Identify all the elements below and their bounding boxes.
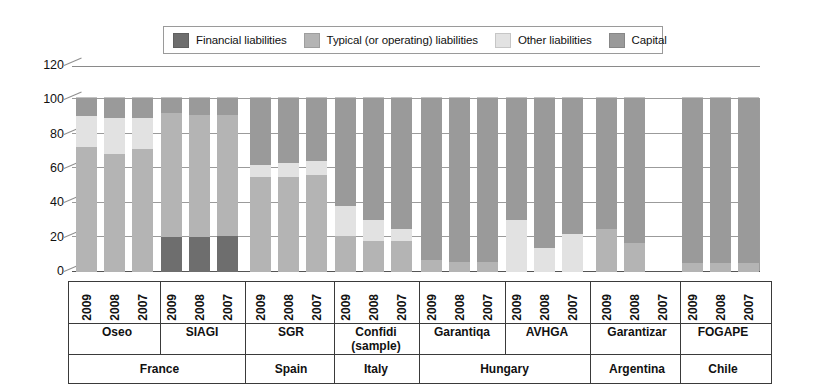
plot-canvas	[72, 66, 760, 272]
bar-fogape-2009	[682, 99, 703, 272]
bar-sgr-2007	[306, 99, 327, 272]
bar-garantizar-2007	[652, 99, 673, 272]
bar-segment-typical	[596, 229, 617, 272]
year-label-oseo-2007: 2007	[136, 294, 152, 321]
y-axis-tick-60: 60	[28, 162, 64, 174]
year-label-garantizar-2008: 2008	[628, 294, 644, 321]
institution-label-fogape: FOGAPE	[677, 326, 769, 340]
bar-segment-capital	[278, 97, 299, 163]
bar-segment-other	[506, 220, 527, 272]
bar-top-cap	[449, 95, 470, 98]
bar-confidisample-2009	[335, 99, 356, 272]
bar-segment-typical	[76, 147, 97, 272]
bar-garantiqa-2009	[421, 99, 442, 272]
y-axis: 120100806040200	[26, 66, 64, 296]
legend-swatch-financial-icon	[173, 33, 189, 48]
label-table-separator	[245, 355, 246, 383]
legend-swatch-typical-icon	[304, 33, 320, 48]
label-table-inner-separator	[160, 324, 161, 355]
bar-segment-typical	[391, 241, 412, 272]
country-label-row: FranceSpainItalyHungaryArgentinaChile	[68, 354, 772, 384]
plot-right-edge	[759, 99, 760, 272]
chart-top-boundary	[72, 66, 760, 67]
bar-garantiqa-2007	[477, 99, 498, 272]
bar-top-cap	[562, 95, 583, 98]
bar-segment-financial	[189, 237, 210, 272]
bar-segment-typical	[421, 260, 442, 272]
bar-segment-typical	[477, 262, 498, 272]
year-label-confidisample-2007: 2007	[395, 294, 411, 321]
bar-top-cap	[506, 95, 527, 98]
bar-segment-other	[104, 118, 125, 154]
legend-swatch-capital-icon	[609, 33, 625, 48]
legend-label-capital: Capital	[632, 34, 667, 46]
label-table-separator	[334, 324, 335, 355]
bar-segment-capital	[596, 97, 617, 228]
bar-oseo-2008	[104, 99, 125, 272]
bar-segment-capital	[104, 97, 125, 118]
bar-top-cap	[189, 95, 210, 98]
bar-top-cap	[161, 95, 182, 98]
institution-label-row: OseoSIAGISGRConfidi(sample)GarantiqaAVHG…	[68, 323, 772, 354]
country-label-spain: Spain	[243, 362, 339, 376]
label-table-inner-separator	[505, 282, 506, 324]
bar-segment-typical	[189, 115, 210, 238]
bar-top-cap	[335, 95, 356, 98]
year-label-siagi-2009: 2009	[165, 294, 181, 321]
bar-garantizar-2009	[596, 99, 617, 272]
bar-segment-capital	[132, 97, 153, 118]
year-label-avhga-2008: 2008	[538, 294, 554, 321]
bar-segment-other	[363, 220, 384, 241]
bar-segment-typical	[449, 262, 470, 272]
year-label-garantizar-2009: 2009	[600, 294, 616, 321]
label-table-inner-separator	[505, 324, 506, 355]
bar-garantiqa-2008	[449, 99, 470, 272]
bar-segment-typical	[363, 241, 384, 272]
year-label-sgr-2008: 2008	[282, 294, 298, 321]
bar-segment-typical	[682, 263, 703, 272]
legend-label-typical: Typical (or operating) liabilities	[327, 34, 478, 46]
y-axis-tick-0: 0	[28, 265, 64, 277]
bar-segment-financial	[161, 237, 182, 272]
bar-segment-other	[132, 118, 153, 149]
bar-segment-typical	[104, 154, 125, 272]
legend-swatch-other-icon	[495, 33, 511, 48]
bar-segment-capital	[421, 97, 442, 260]
year-label-garantiqa-2009: 2009	[425, 294, 441, 321]
bar-segment-other	[562, 234, 583, 272]
label-table-separator	[590, 355, 591, 383]
year-label-fogape-2009: 2009	[686, 294, 702, 321]
bar-segment-capital	[506, 97, 527, 220]
bar-segment-capital	[477, 97, 498, 261]
bar-top-cap	[132, 95, 153, 98]
legend-item-financial: Financial liabilities	[173, 33, 287, 48]
legend-item-capital: Capital	[609, 33, 667, 48]
country-label-hungary: Hungary	[414, 362, 595, 376]
chart-legend: Financial liabilitiesTypical (or operati…	[163, 26, 663, 54]
y-axis-tick-100: 100	[28, 93, 64, 105]
label-table-separator	[419, 282, 420, 324]
bar-segment-typical	[132, 149, 153, 272]
bar-segment-typical	[250, 177, 271, 272]
year-label-garantizar-2007: 2007	[656, 294, 672, 321]
bar-segment-capital	[161, 97, 182, 113]
y-axis-tick-40: 40	[28, 196, 64, 208]
bar-siagi-2008	[189, 99, 210, 272]
institution-label-line: Oseo	[71, 326, 163, 340]
bar-segment-typical	[624, 243, 645, 272]
institution-label-line: SGR	[245, 326, 337, 340]
bar-top-cap	[278, 95, 299, 98]
bar-segment-typical	[161, 113, 182, 238]
bar-oseo-2007	[132, 99, 153, 272]
bar-segment-capital	[306, 97, 327, 161]
bar-segment-other	[278, 163, 299, 177]
bar-top-cap	[534, 95, 555, 98]
bar-sgr-2009	[250, 99, 271, 272]
bar-segment-typical	[278, 177, 299, 272]
bar-fogape-2008	[710, 99, 731, 272]
bar-segment-typical	[217, 115, 238, 236]
year-label-fogape-2008: 2008	[714, 294, 730, 321]
bar-top-cap	[421, 95, 442, 98]
bar-siagi-2009	[161, 99, 182, 272]
label-table-separator	[419, 355, 420, 383]
